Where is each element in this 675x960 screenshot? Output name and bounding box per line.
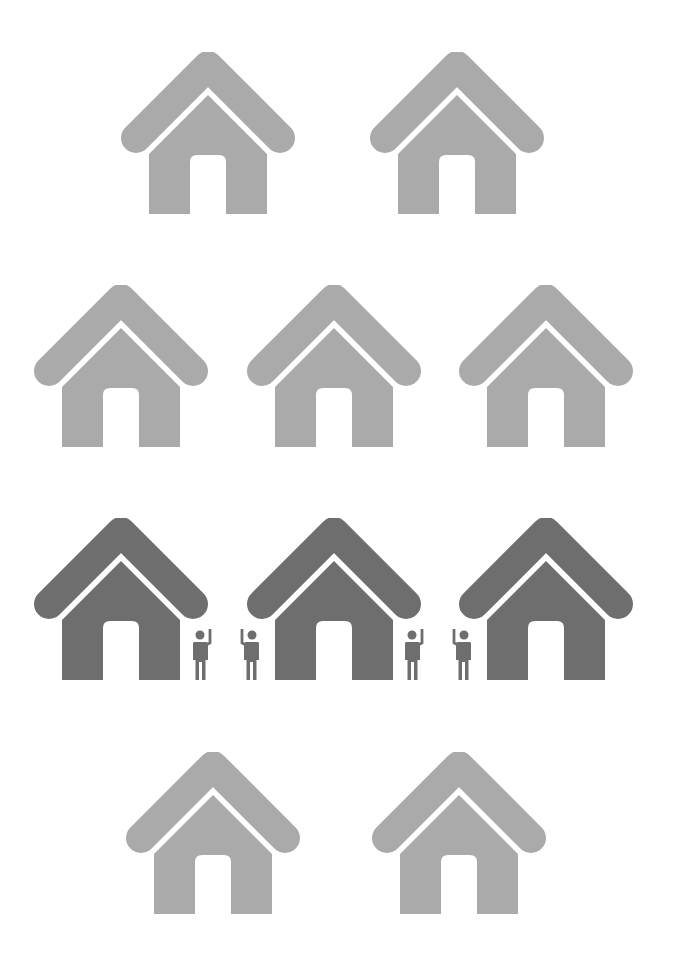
house-icon — [246, 285, 422, 447]
occupied-house-icon — [33, 518, 209, 680]
house-icon — [125, 752, 301, 914]
house-icon — [369, 52, 545, 214]
person-waving-icon — [451, 629, 473, 681]
house-icon — [120, 52, 296, 214]
occupied-house-icon — [458, 518, 634, 680]
person-waving-icon — [239, 629, 261, 681]
person-waving-icon — [403, 629, 425, 681]
house-icon — [33, 285, 209, 447]
house-icon — [458, 285, 634, 447]
person-waving-icon — [191, 629, 213, 681]
occupied-house-icon — [246, 518, 422, 680]
house-icon — [371, 752, 547, 914]
